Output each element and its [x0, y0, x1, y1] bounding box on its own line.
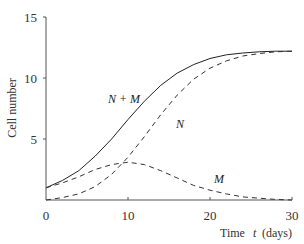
y-tick-15: 15: [24, 10, 37, 25]
y-tick-5: 5: [31, 132, 38, 147]
x-tick-10: 10: [122, 208, 135, 223]
x-axis-title-unit: (days): [262, 226, 292, 240]
x-tick-0: 0: [43, 208, 50, 223]
x-axis-title-var: t: [253, 226, 257, 240]
x-tick-30: 30: [286, 208, 299, 223]
label-m: M: [213, 172, 225, 186]
label-n-plus-m: N + M: [107, 92, 141, 106]
curve-n-plus-m: [46, 51, 292, 188]
label-n: N: [175, 117, 185, 131]
curve-m: [46, 162, 292, 200]
y-axis-title: Cell number: [5, 78, 19, 138]
x-axis-title-time: Time: [220, 226, 245, 240]
y-tick-10: 10: [24, 71, 37, 86]
curve-n: [46, 51, 292, 200]
x-tick-20: 20: [204, 208, 217, 223]
chart-canvas: 15 10 5 0 10 20 30 Cell number Time t (d…: [0, 0, 304, 244]
